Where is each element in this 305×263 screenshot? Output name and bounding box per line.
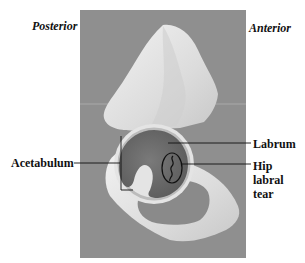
hip-bone-photograph: [80, 10, 246, 258]
hip-labral-tear-label-line2: labral: [253, 173, 284, 187]
hip-labral-tear-label-line1: Hip: [253, 159, 272, 173]
anterior-label: Anterior: [249, 21, 291, 35]
labrum-label: Labrum: [253, 137, 296, 151]
acetabulum-label: Acetabulum: [11, 156, 74, 170]
posterior-label: Posterior: [32, 19, 77, 33]
hip-labral-tear-label-line3: tear: [253, 187, 274, 201]
